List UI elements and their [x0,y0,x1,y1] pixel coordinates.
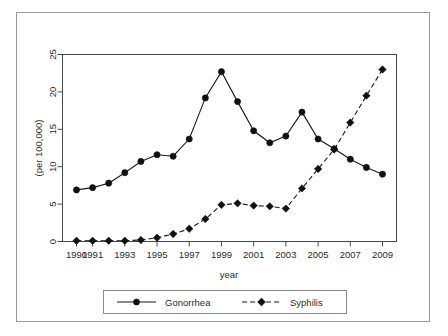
y-axis-ticks: 0510152025 [47,49,63,244]
x-tick-label: 2001 [243,249,264,260]
data-point [137,236,144,243]
data-point [299,109,305,115]
data-point [202,95,208,101]
data-point [105,237,112,244]
data-point [73,237,80,244]
data-point [363,164,369,170]
data-point [122,170,128,176]
y-tick-label: 25 [47,49,58,60]
data-point [218,201,225,208]
data-point [234,99,240,105]
data-point [379,171,385,177]
x-axis-ticks: 1990199119931995199719992001200320052007… [66,242,393,260]
data-point [106,180,112,186]
data-point [170,153,176,159]
x-tick-label: 1995 [146,249,167,260]
x-tick-label: 1991 [82,249,103,260]
data-point [251,128,257,134]
line-chart: 0510152025 19901991199319951997199920012… [0,0,448,336]
x-tick-label: 1999 [211,249,232,260]
data-point [315,136,321,142]
y-tick-label: 0 [47,239,58,244]
data-point [89,237,96,244]
figure-container: 0510152025 19901991199319951997199920012… [0,0,448,336]
x-axis-title: year [220,269,238,280]
x-tick-label: 1997 [179,249,200,260]
y-tick-label: 15 [47,124,58,135]
legend-label-syphilis: Syphilis [290,297,323,308]
data-point [153,234,160,241]
data-point [347,156,353,162]
y-axis-title: (per 100,000) [33,119,44,176]
x-tick-label: 2009 [372,249,393,260]
data-point [121,237,128,244]
data-point [186,136,192,142]
data-point [283,133,289,139]
y-tick-label: 20 [47,87,58,98]
data-point [186,225,193,232]
x-tick-label: 1993 [114,249,135,260]
series-markers-syphilis [73,66,386,245]
legend-label-gonorrhea: Gonorrhea [165,297,211,308]
legend-swatch-gonorrhea-marker [133,299,139,305]
data-point [154,152,160,158]
data-point [363,92,370,99]
x-tick-label: 2003 [275,249,296,260]
data-point [234,200,241,207]
x-tick-label: 2005 [308,249,329,260]
x-tick-label: 2007 [340,249,361,260]
data-point [266,203,273,210]
data-point [267,140,273,146]
y-tick-label: 5 [47,201,58,206]
chart-legend: Gonorrhea Syphilis [104,291,347,314]
data-point [73,187,79,193]
plot-frame [63,55,397,242]
data-point [218,69,224,75]
data-point [250,202,257,209]
series-line-syphilis [77,69,383,240]
data-point [90,185,96,191]
data-point [138,158,144,164]
data-point [282,205,289,212]
data-point [379,66,386,73]
data-point [347,119,354,126]
data-point [331,146,337,152]
data-point [169,230,176,237]
y-tick-label: 10 [47,161,58,172]
